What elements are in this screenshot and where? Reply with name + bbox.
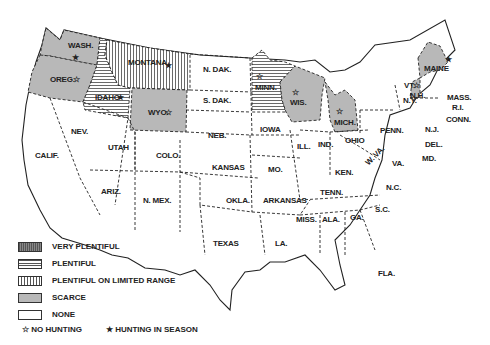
label-minn: MINN. [255,83,277,92]
label-sc: S.C. [375,205,390,214]
label-iowa: IOWA [260,125,281,134]
label-calif: CALIF. [35,151,59,160]
label-ariz: ARIZ. [101,187,121,196]
legend-scarce: SCARCE [18,289,175,306]
hunting-in-season-item: ★ HUNTING IN SEASON [106,325,198,334]
legend-label: PLENTIFUL ON LIMITED RANGE [52,276,175,285]
label-ny: N.Y. [403,96,417,105]
label-utah: UTAH [108,143,129,152]
label-colo: COLO. [156,151,180,160]
label-ohio: OHIO [345,136,365,145]
legend-label: SCARCE [52,293,86,302]
swatch-plentiful [18,259,42,269]
label-va: VA. [392,159,404,168]
symbol-wash: ★ [72,53,80,62]
star-outline-icon: ☆ [22,325,29,334]
state-wis [280,66,325,122]
label-n-dak: N. DAK. [203,65,231,74]
swatch-very-plentiful [18,242,42,252]
label-mo: MO. [268,165,283,174]
legend-none: NONE [18,306,175,323]
label-la: LA. [275,239,287,248]
symbol-montana: ★ [165,61,173,70]
label-wis: WIS. [290,98,307,107]
hunting-legend: ☆ NO HUNTING ★ HUNTING IN SEASON [22,325,198,334]
label-arkansas: ARKANSAS [263,196,308,205]
label-wash: WASH. [68,41,93,50]
symbol-wyo: ☆ [165,108,173,117]
label-conn: CONN. [446,115,471,124]
symbol-idaho: ★ [117,93,125,102]
label-ill: ILL. [297,142,310,151]
label-kansas: KANSAS [212,163,245,172]
symbol-wis: ☆ [292,88,300,97]
label-s-dak: S. DAK. [203,96,231,105]
label-penn: PENN. [380,126,403,135]
label-miss: MISS. [296,215,317,224]
legend-label: VERY PLENTIFUL [52,242,120,251]
swatch-none [18,310,42,320]
label-ala: ALA. [322,215,340,224]
label-md: MD. [422,154,436,163]
label-ga: GA. [350,213,364,222]
label-mich: MICH. [334,118,356,127]
symbol-vt: ☆ [413,81,421,90]
symbol-mich: ☆ [336,107,344,116]
label-ken: KEN. [335,168,353,177]
no-hunting-item: ☆ NO HUNTING [22,325,82,334]
legend-label: NONE [52,310,75,319]
legend-plentiful-limited: PLENTIFUL ON LIMITED RANGE [18,272,175,289]
legend-plentiful: PLENTIFUL [18,255,175,272]
label-fla: FLA. [378,269,395,278]
label-ri: R.I. [452,103,464,112]
map-legend: VERY PLENTIFUL PLENTIFUL PLENTIFUL ON LI… [18,238,175,323]
star-filled-icon: ★ [106,325,113,334]
label-tenn: TENN. [320,188,343,197]
label-okla: OKLA. [226,196,250,205]
symbol-oreg: ☆ [73,75,81,84]
label-neb: NEB. [208,131,226,140]
label-mass: MASS. [447,93,471,102]
label-maine: MAINE [424,64,450,73]
label-montana: MONTANA [128,58,167,67]
swatch-plentiful-limited [18,276,42,286]
label-texas: TEXAS [213,239,240,248]
label-nj: N.J. [425,125,439,134]
legend-very-plentiful: VERY PLENTIFUL [18,238,175,255]
symbol-maine: ★ [445,55,453,64]
label-oreg: OREG. [50,75,75,84]
label-del: DEL. [425,140,442,149]
label-nev: NEV. [71,127,88,136]
legend-label: PLENTIFUL [52,259,96,268]
label-ind: IND. [318,140,333,149]
swatch-scarce [18,293,42,303]
symbol-minn: ☆ [256,72,264,81]
label-n-mex: N. MEX. [143,196,171,205]
label-nc: N.C. [386,183,401,192]
